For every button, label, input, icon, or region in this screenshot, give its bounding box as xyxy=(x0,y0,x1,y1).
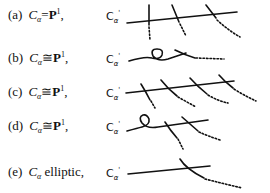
curve-b xyxy=(129,49,224,61)
curve-d xyxy=(127,115,220,149)
curve-e xyxy=(128,159,242,188)
curve-c xyxy=(126,75,256,108)
curve-a xyxy=(127,5,240,40)
curves-diagram xyxy=(0,0,270,193)
